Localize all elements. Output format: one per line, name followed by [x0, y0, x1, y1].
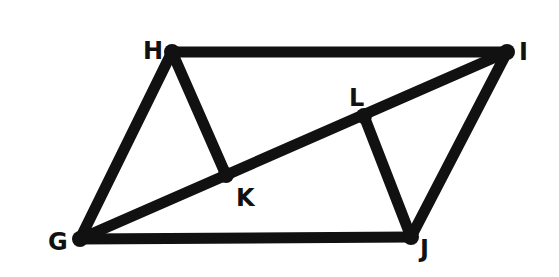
point-k — [218, 167, 234, 183]
segment-ij — [411, 52, 507, 237]
point-i — [499, 44, 515, 60]
parallelogram-figure — [0, 0, 559, 277]
label-h: H — [143, 39, 163, 63]
label-i: I — [519, 40, 528, 64]
label-g: G — [48, 230, 68, 254]
point-g — [72, 231, 88, 247]
segment-gi — [80, 52, 507, 239]
segment-hk — [172, 52, 226, 175]
segment-gh — [80, 52, 172, 239]
diagram-canvas: H I L K G J — [0, 0, 559, 277]
point-j — [403, 229, 419, 245]
point-h — [164, 44, 180, 60]
segment-jg — [80, 237, 411, 239]
label-k: K — [236, 186, 255, 210]
label-j: J — [420, 237, 429, 261]
label-l: L — [349, 86, 364, 110]
segment-jl — [364, 116, 411, 237]
